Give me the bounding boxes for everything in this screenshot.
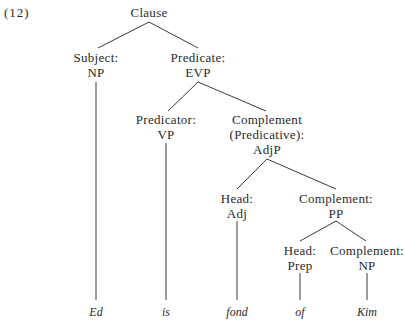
node-function: Predicator: — [136, 112, 196, 127]
word-kim: Kim — [357, 305, 377, 320]
node-complement-np: Complement: NP — [330, 243, 404, 273]
word-of: of — [295, 305, 304, 320]
node-function: Complement: — [330, 243, 404, 258]
node-predicator: Predicator: VP — [136, 112, 196, 142]
node-subfunction: (Predicative): — [230, 127, 305, 142]
node-complement-predicative: Complement (Predicative): AdjP — [230, 112, 305, 157]
node-category: Adj — [221, 206, 254, 221]
node-clause: Clause — [130, 5, 167, 20]
node-head-prep: Head: Prep — [284, 243, 317, 273]
node-category: EVP — [171, 65, 226, 80]
node-head-adj: Head: Adj — [221, 191, 254, 221]
node-function: Complement — [230, 112, 305, 127]
node-category: NP — [73, 65, 118, 80]
node-predicate: Predicate: EVP — [171, 50, 226, 80]
node-category: AdjP — [230, 142, 305, 157]
node-complement-pp: Complement: PP — [299, 191, 373, 221]
node-function: Complement: — [299, 191, 373, 206]
node-function: Predicate: — [171, 50, 226, 65]
node-function: Head: — [284, 243, 317, 258]
node-category: NP — [330, 258, 404, 273]
node-function: Subject: — [73, 50, 118, 65]
word-is: is — [162, 305, 170, 320]
word-ed: Ed — [89, 305, 102, 320]
node-function: Head: — [221, 191, 254, 206]
node-category: PP — [299, 206, 373, 221]
node-subject: Subject: NP — [73, 50, 118, 80]
node-category: VP — [136, 127, 196, 142]
node-label: Clause — [130, 5, 167, 20]
word-fond: fond — [226, 305, 247, 320]
example-number: (12) — [4, 5, 30, 21]
node-category: Prep — [284, 258, 317, 273]
